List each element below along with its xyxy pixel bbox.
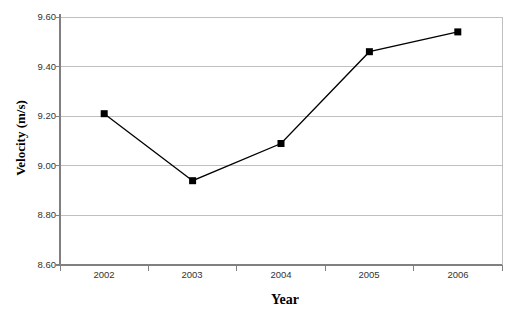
data-point-2005 — [366, 48, 373, 55]
data-point-2004 — [278, 140, 285, 147]
x-tick-label-2005: 2005 — [334, 269, 404, 280]
x-tick-label-2006: 2006 — [423, 269, 493, 280]
data-point-2002 — [101, 110, 108, 117]
data-point-2006 — [454, 28, 461, 35]
x-axis-title: Year — [60, 292, 510, 308]
line-chart: Velocity (m/s) 9.60 9.40 9.20 9.00 8.80 … — [0, 0, 511, 319]
x-tick-label-2003: 2003 — [157, 269, 227, 280]
data-point-2003 — [189, 177, 196, 184]
x-tick-label-2004: 2004 — [246, 269, 316, 280]
series-markers-velocity — [101, 28, 462, 184]
gridlines — [60, 17, 502, 215]
series-line-velocity — [104, 32, 458, 181]
x-tick-label-2002: 2002 — [69, 269, 139, 280]
